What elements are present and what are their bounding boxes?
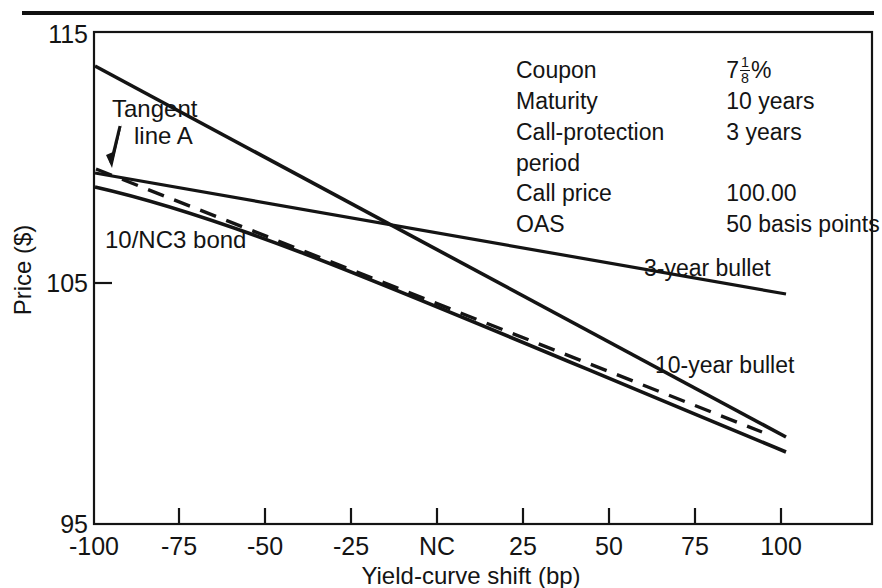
x-tick-label-nc: NC (387, 534, 487, 559)
table-row: period (516, 149, 880, 180)
x-tick-label-50: 50 (559, 534, 659, 559)
coupon-whole: 7 (726, 57, 739, 83)
table-row: Coupon 718% (516, 55, 880, 87)
annotation-tangent-line-2: line A (112, 123, 197, 150)
info-value-call-protection: 3 years (726, 118, 879, 149)
table-row: Call-protection 3 years (516, 118, 880, 149)
info-key-call-protection: Call-protection (516, 118, 726, 149)
annotation-3-year-bullet: 3-year bullet (644, 257, 771, 280)
coupon-percent-sign: % (751, 57, 771, 83)
info-value-call-price: 100.00 (726, 179, 879, 210)
info-key-call-price: Call price (516, 179, 726, 210)
x-tick-label--50: -50 (215, 534, 315, 559)
annotation-10-year-bullet: 10-year bullet (655, 354, 794, 377)
chart-figure: 115 105 95 Price ($) -100 -75 -50 -25 NC… (0, 0, 882, 588)
annotation-tangent-line-a: Tangent line A (112, 96, 197, 150)
info-value-period (726, 149, 879, 180)
x-tick-label--75: -75 (129, 534, 229, 559)
info-value-coupon: 718% (726, 55, 879, 87)
info-value-oas: 50 basis points (726, 210, 879, 241)
x-tick-label-100: 100 (731, 534, 831, 559)
x-tick-label-75: 75 (645, 534, 745, 559)
annotation-10-nc3-bond: 10/NC3 bond (105, 228, 246, 252)
info-value-maturity: 10 years (726, 87, 879, 118)
info-key-maturity: Maturity (516, 87, 726, 118)
y-tick-label-115: 115 (18, 22, 88, 47)
annotation-tangent-line-1: Tangent (112, 95, 197, 122)
y-axis-title: Price ($) (11, 200, 35, 340)
coupon-denominator: 8 (740, 71, 750, 86)
x-tick-label--25: -25 (301, 534, 401, 559)
x-tick-label-25: 25 (473, 534, 573, 559)
coupon-fraction: 18 (740, 55, 750, 85)
info-key-oas: OAS (516, 210, 726, 241)
x-axis-title: Yield-curve shift (bp) (341, 564, 601, 588)
table-row: Maturity 10 years (516, 87, 880, 118)
table-row: Call price 100.00 (516, 179, 880, 210)
info-key-period: period (516, 149, 726, 180)
coupon-numerator: 1 (740, 55, 750, 71)
table-row: OAS 50 basis points (516, 210, 880, 241)
info-key-coupon: Coupon (516, 55, 726, 87)
x-axis-ticks (179, 508, 781, 524)
bond-parameters-table: Coupon 718% Maturity 10 years Call-prote… (516, 55, 880, 241)
